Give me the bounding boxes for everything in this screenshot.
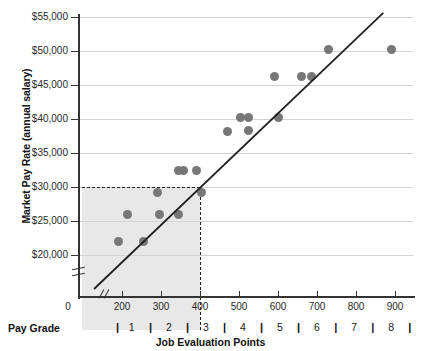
data-point — [179, 166, 188, 175]
data-point — [155, 210, 164, 219]
data-point — [244, 126, 253, 135]
y-axis-break-icon — [72, 266, 85, 278]
x-axis-break-icon — [98, 289, 112, 299]
y-tick — [71, 153, 79, 154]
y-tick — [71, 255, 79, 256]
x-tick — [200, 291, 201, 298]
pay-grade-3: 3 — [198, 320, 214, 334]
x-tick-label: 800 — [336, 301, 376, 312]
data-point — [174, 210, 183, 219]
data-point — [139, 237, 148, 246]
data-point — [192, 166, 201, 175]
pay-grade-8: 8 — [383, 320, 399, 334]
y-tick-label: $30,000 — [10, 181, 68, 192]
pay-grade-label: Pay Grade — [8, 322, 60, 334]
x-tick — [356, 291, 357, 298]
gridline — [78, 85, 413, 86]
x-tick — [122, 291, 123, 298]
pay-grade-separator: | — [220, 320, 230, 334]
x-axis-title: Job Evaluation Points — [0, 336, 421, 348]
chart-root: Market Pay Rate (annual salary) $20,000$… — [0, 0, 421, 351]
data-point — [153, 188, 162, 197]
y-tick — [71, 221, 79, 222]
pay-grade-separator: | — [183, 320, 193, 334]
y-tick — [71, 17, 79, 18]
x-tick-label: 0 — [48, 301, 88, 312]
pay-grade-2: 2 — [161, 320, 177, 334]
x-tick-label: 200 — [102, 301, 142, 312]
x-tick — [395, 291, 396, 298]
y-tick-label: $50,000 — [10, 45, 68, 56]
x-tick-label: 400 — [180, 301, 220, 312]
y-tick — [71, 85, 79, 86]
pay-grade-separator: | — [405, 320, 415, 334]
data-point — [197, 188, 206, 197]
pay-grade-4: 4 — [235, 320, 251, 334]
data-point — [307, 72, 316, 81]
guide-line-horizontal — [82, 187, 200, 188]
data-point — [244, 113, 253, 122]
y-tick-label: $45,000 — [10, 79, 68, 90]
x-tick — [239, 291, 240, 298]
x-tick-label: 600 — [258, 301, 298, 312]
x-tick-label: 300 — [141, 301, 181, 312]
pay-grade-7: 7 — [346, 320, 362, 334]
gridline — [78, 255, 413, 256]
data-point — [114, 237, 123, 246]
x-tick-label: 900 — [375, 301, 415, 312]
y-tick-label: $40,000 — [10, 113, 68, 124]
pay-grade-separator: | — [331, 320, 341, 334]
pay-grade-separator: | — [113, 320, 123, 334]
pay-grade-5: 5 — [272, 320, 288, 334]
x-tick-label: 500 — [219, 301, 259, 312]
pay-grade-separator: | — [368, 320, 378, 334]
y-tick-label: $55,000 — [10, 11, 68, 22]
x-axis-line — [78, 296, 415, 298]
data-point — [123, 210, 132, 219]
pay-grade-separator: | — [294, 320, 304, 334]
y-tick-label: $25,000 — [10, 215, 68, 226]
pay-grade-1: 1 — [124, 320, 140, 334]
y-tick — [71, 187, 79, 188]
gridline — [78, 153, 413, 154]
data-point — [324, 45, 333, 54]
gridline — [78, 221, 413, 222]
gridline — [78, 17, 413, 18]
y-tick-label: $20,000 — [10, 249, 68, 260]
x-tick — [161, 291, 162, 298]
x-tick — [278, 291, 279, 298]
y-tick — [71, 51, 79, 52]
y-tick — [71, 119, 79, 120]
data-point — [223, 127, 232, 136]
data-point — [387, 45, 396, 54]
pay-grade-6: 6 — [309, 320, 325, 334]
x-tick — [317, 291, 318, 298]
pay-grade-separator: | — [145, 320, 155, 334]
x-tick-label: 700 — [297, 301, 337, 312]
plot-area — [78, 17, 413, 297]
data-point — [274, 113, 283, 122]
data-point — [270, 72, 279, 81]
data-point — [297, 72, 306, 81]
gridline — [78, 51, 413, 52]
y-tick-label: $35,000 — [10, 147, 68, 158]
pay-grade-separator: | — [257, 320, 267, 334]
